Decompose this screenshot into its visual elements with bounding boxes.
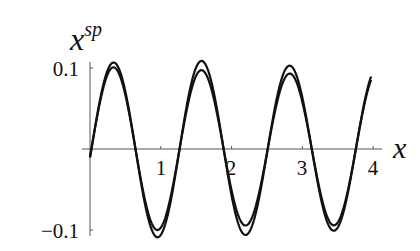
y-tick-label-neg0.1: −0.1 [41,219,79,243]
y-axis-label: xsp [69,18,102,57]
x-tick-label-3: 3 [297,156,308,180]
y-axis-label-sup: sp [84,18,102,41]
x-tick-label-2: 2 [226,156,237,180]
x-tick-label-1: 1 [156,156,167,180]
x-tick-label-4: 4 [368,156,379,180]
y-tick-label-0.1: 0.1 [53,57,79,81]
x-axis-label: x [392,131,407,164]
line-chart: 0.1 −0.1 1 2 3 4 x xsp [0,0,420,251]
y-axis-label-base: x [69,21,84,57]
